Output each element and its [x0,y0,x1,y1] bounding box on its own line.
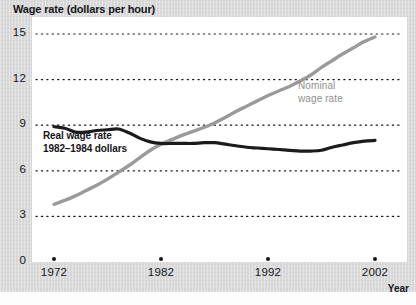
annotation-nominal-line1: Nominal [298,80,343,93]
y-tick-label: 6 [2,163,26,175]
x-tick-label: 2002 [354,266,396,278]
series-annotation-nominal-wage: Nominal wage rate [298,80,343,105]
x-tick-dot [373,257,377,261]
chart-figure: Wage rate (dollars per hour) 03691215 19… [0,0,416,305]
series-line [54,37,375,204]
x-tick-label: 1972 [33,266,75,278]
page-bottom-strip [0,292,416,305]
x-tick-dot [159,257,163,261]
annotation-real-line2: 1982–1984 dollars [43,143,127,156]
x-tick-dot [52,257,56,261]
chart-title: Wage rate (dollars per hour) [13,3,155,15]
annotation-nominal-line2: wage rate [298,93,343,106]
annotation-real-line1: Real wage rate [43,130,127,143]
y-tick-label: 9 [2,117,26,129]
x-tick-label: 1982 [140,266,182,278]
x-tick-label: 1992 [247,266,289,278]
series-lines [54,37,375,204]
y-tick-label: 0 [2,254,26,266]
y-tick-label: 15 [2,26,26,38]
x-tick-dot [266,257,270,261]
x-axis-title: Year [388,283,409,294]
y-tick-label: 12 [2,72,26,84]
series-annotation-real-wage: Real wage rate 1982–1984 dollars [43,130,127,155]
y-tick-label: 3 [2,208,26,220]
